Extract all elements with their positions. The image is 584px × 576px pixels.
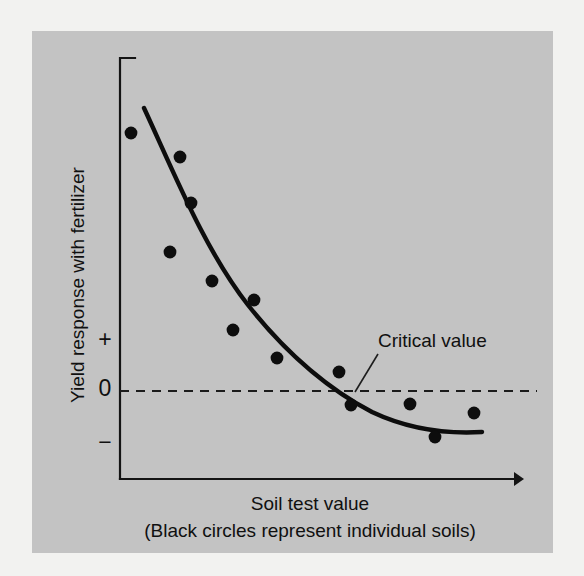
data-point [185, 197, 198, 210]
data-point [333, 366, 346, 379]
x-axis-arrow-icon [514, 472, 524, 486]
critical-value-annotation: Critical value [378, 330, 487, 351]
data-point [125, 127, 138, 140]
soil-test-response-chart: Critical value + 0 − Yield response with… [0, 0, 584, 576]
y-tick-label-minus: − [98, 429, 111, 455]
x-axis-title: Soil test value [251, 493, 369, 514]
y-tick-label-plus: + [98, 326, 111, 352]
y-axis-line [120, 58, 135, 479]
data-point [345, 399, 358, 412]
critical-value-leader-line [355, 354, 378, 392]
data-point [404, 398, 417, 411]
y-tick-label-zero: 0 [99, 375, 112, 401]
y-axis-title: Yield response with fertilizer [67, 166, 88, 403]
data-point [248, 294, 261, 307]
data-point [468, 407, 481, 420]
data-point [164, 246, 177, 259]
data-point [206, 275, 219, 288]
data-point [227, 324, 240, 337]
x-axis-subtitle: (Black circles represent individual soil… [144, 520, 476, 541]
figure-root: Critical value + 0 − Yield response with… [0, 0, 584, 576]
data-point [429, 431, 442, 444]
data-point [174, 151, 187, 164]
response-curve [144, 108, 482, 432]
data-point [271, 352, 284, 365]
